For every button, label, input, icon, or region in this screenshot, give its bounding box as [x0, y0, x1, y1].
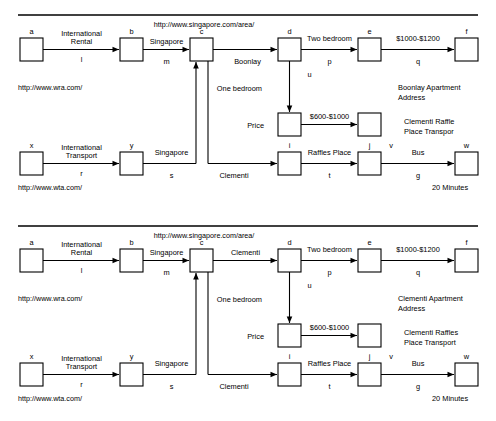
edge-price-src-dst-arrowhead	[351, 122, 358, 128]
node-label-c: c	[200, 27, 204, 36]
edge-j-w-arrowhead	[448, 161, 455, 167]
node-box-c[interactable]	[190, 249, 213, 272]
node-label-x: x	[30, 352, 34, 361]
node-box-x[interactable]	[20, 152, 43, 175]
node-label-w: w	[463, 141, 470, 150]
note-duration: 20 Minutes	[432, 183, 468, 192]
edge-i-j-label-top: Raffles Place	[308, 359, 351, 368]
note-transport-line2: Place Transpor	[404, 127, 454, 136]
note-url-wra: http://www.wra.com/	[18, 83, 82, 92]
edge-a-b-label-bottom: l	[81, 55, 83, 64]
edge-e-f-label-bottom: q	[416, 268, 420, 277]
node-label-a: a	[29, 238, 34, 247]
edge-i-j-label-bottom: t	[328, 171, 330, 180]
note-transport-line1: Clementi Raffle	[404, 117, 454, 126]
node-box-c[interactable]	[190, 38, 213, 61]
edge-y-c-label-bottom: s	[170, 171, 174, 180]
node-box-w[interactable]	[455, 363, 478, 386]
edge-d-price-label-u: u	[308, 70, 312, 79]
edge-x-y-arrowhead	[113, 161, 120, 167]
note-apartment-line1: Boonlay Apartment	[398, 83, 460, 92]
note-url-wta: http://www.wta.com/	[18, 394, 82, 403]
node-box-b[interactable]	[120, 38, 143, 61]
node-box-i[interactable]	[278, 363, 301, 386]
note-apartment-line2: Address	[398, 304, 425, 313]
edge-d-e-label-bottom: p	[327, 268, 331, 277]
node-box-b[interactable]	[120, 249, 143, 272]
node-box-f[interactable]	[455, 38, 478, 61]
one-bedroom-label: One bedroom	[217, 84, 262, 93]
edge-j-w-label-bottom: g	[416, 171, 420, 180]
edge-j-w-label-top: Bus	[412, 359, 425, 368]
node-box-price_src[interactable]	[278, 324, 301, 347]
node-box-j[interactable]	[358, 363, 381, 386]
node-box-a[interactable]	[20, 249, 43, 272]
note-duration: 20 Minutes	[432, 394, 468, 403]
edge-i-j-label-bottom: t	[328, 382, 330, 391]
node-box-f[interactable]	[455, 249, 478, 272]
node-label-c: c	[200, 238, 204, 247]
edge-e-f-label-top: $1000-$1200	[396, 245, 440, 254]
node-box-i[interactable]	[278, 152, 301, 175]
edge-y-c-label-top: Singapore	[155, 148, 189, 157]
edge-a-b-arrowhead	[113, 47, 120, 53]
edge-price-src-dst-arrowhead	[351, 333, 358, 339]
edge-x-y-label-line2: Transport	[66, 362, 97, 371]
edge-x-y-label-bottom: r	[80, 380, 83, 389]
edge-c-d-label-top: Clementi	[231, 248, 261, 257]
node-box-x[interactable]	[20, 363, 43, 386]
node-label-w: w	[463, 352, 470, 361]
note-transport-line2: Place Transport	[404, 338, 456, 347]
edge-c-i-horizontal-arrowhead	[271, 372, 278, 378]
edge-b-c-arrowhead	[183, 47, 190, 53]
edge-a-b-label-line2: Rental	[71, 248, 93, 257]
node-box-d[interactable]	[278, 38, 301, 61]
node-box-price_dst[interactable]	[358, 324, 381, 347]
node-label-i: i	[289, 141, 291, 150]
url-header-label: http://www.singapore.com/area/	[154, 231, 255, 240]
node-box-price_src[interactable]	[278, 113, 301, 136]
node-label-d: d	[287, 27, 291, 36]
node-label-e: e	[367, 27, 371, 36]
edge-x-y-label-line2: Transport	[66, 151, 97, 160]
node-label-d: d	[287, 238, 291, 247]
edge-d-e-label-top: Two bedroom	[307, 34, 352, 43]
node-box-w[interactable]	[455, 152, 478, 175]
node-box-e[interactable]	[358, 38, 381, 61]
edge-c-i-label-bottom: Clementi	[219, 382, 249, 391]
note-apartment-line2: Address	[398, 93, 425, 102]
v-marker-label: v	[389, 352, 393, 361]
edge-e-f-label-top: $1000-$1200	[396, 34, 440, 43]
node-box-e[interactable]	[358, 249, 381, 272]
one-bedroom-label: One bedroom	[217, 295, 262, 304]
edge-j-w-label-bottom: g	[416, 382, 420, 391]
edge-c-d-label-bottom: Boonlay	[234, 57, 261, 66]
node-box-d[interactable]	[278, 249, 301, 272]
node-label-j: j	[368, 141, 371, 150]
edge-price-label-top: $600-$1000	[310, 112, 349, 121]
edge-b-c-label-bottom: m	[163, 57, 169, 66]
edge-e-f-label-bottom: q	[416, 57, 420, 66]
edge-y-c-label-bottom: s	[170, 382, 174, 391]
edge-x-y-arrowhead	[113, 372, 120, 378]
node-label-f: f	[465, 27, 468, 36]
edge-e-f-arrowhead	[448, 47, 455, 53]
edge-x-y-label-bottom: r	[80, 169, 83, 178]
node-box-price_dst[interactable]	[358, 113, 381, 136]
edge-a-b-arrowhead	[113, 258, 120, 264]
edge-j-w-arrowhead	[448, 372, 455, 378]
edge-a-b-label-line2: Rental	[71, 37, 93, 46]
node-label-a: a	[29, 27, 34, 36]
edge-d-price-arrowhead	[287, 106, 293, 113]
node-box-a[interactable]	[20, 38, 43, 61]
edge-y-c-label-top: Singapore	[155, 359, 189, 368]
node-box-y[interactable]	[120, 363, 143, 386]
v-marker-label: v	[389, 141, 393, 150]
node-label-i: i	[289, 352, 291, 361]
node-box-j[interactable]	[358, 152, 381, 175]
node-box-y[interactable]	[120, 152, 143, 175]
edge-b-c-arrowhead	[183, 258, 190, 264]
note-url-wta: http://www.wta.com/	[18, 183, 82, 192]
diagram-panel-bottom: http://www.singapore.com/area/abcdefxyij…	[0, 211, 496, 421]
edge-d-price-arrowhead	[287, 317, 293, 324]
